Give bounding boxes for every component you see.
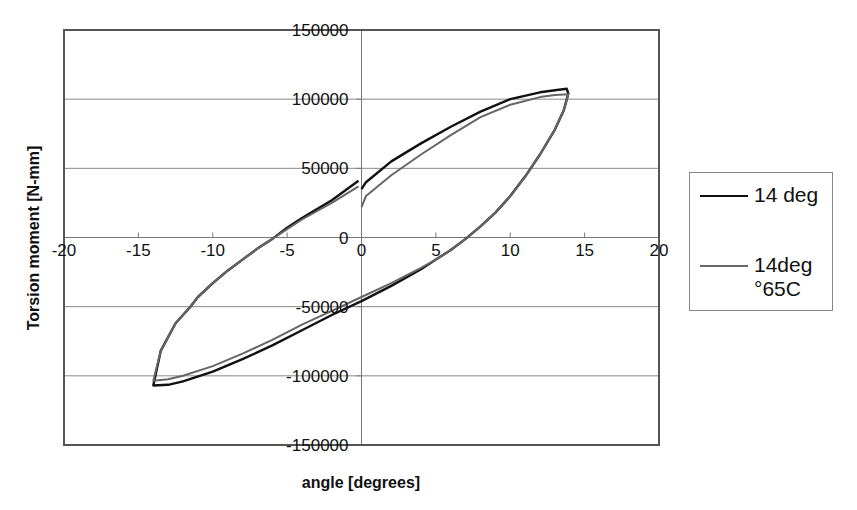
x-tick-label: -15 — [126, 241, 151, 260]
legend-label-line-1: 14deg — [754, 253, 834, 277]
legend-swatch-gray — [700, 265, 748, 267]
legend-item-14deg-65c[interactable]: 14deg °65C — [700, 253, 834, 301]
y-tick-label: -50000 — [296, 298, 349, 317]
x-tick-label: 15 — [575, 241, 594, 260]
y-tick-label: -150000 — [286, 436, 348, 455]
x-tick-label: 5 — [431, 241, 440, 260]
y-axis-title: Torsion moment [N-mm] — [25, 146, 42, 331]
legend-label-line-2: °65C — [754, 277, 834, 301]
x-tick-label: 20 — [650, 241, 669, 260]
x-tick-label: -10 — [200, 241, 225, 260]
x-tick-label: -5 — [280, 241, 295, 260]
y-tick-label: 100000 — [292, 90, 349, 109]
x-tick-label: 10 — [501, 241, 520, 260]
legend-swatch-black — [700, 195, 748, 197]
y-tick-label: -100000 — [286, 367, 348, 386]
legend-item-14-deg[interactable]: 14 deg — [700, 183, 834, 207]
x-tick-labels: -20-15-10-505101520 — [52, 241, 669, 260]
y-tick-label: 150000 — [292, 21, 349, 40]
x-tick-label: -20 — [52, 241, 77, 260]
legend-label: 14 deg — [754, 183, 834, 207]
legend-label: 14deg °65C — [754, 253, 834, 301]
y-tick-label: 50000 — [301, 159, 348, 178]
y-tick-label: 0 — [339, 229, 348, 248]
x-axis-title: angle [degrees] — [302, 474, 420, 491]
legend: 14 deg 14deg °65C — [689, 172, 833, 311]
x-tick-label: 0 — [357, 241, 366, 260]
